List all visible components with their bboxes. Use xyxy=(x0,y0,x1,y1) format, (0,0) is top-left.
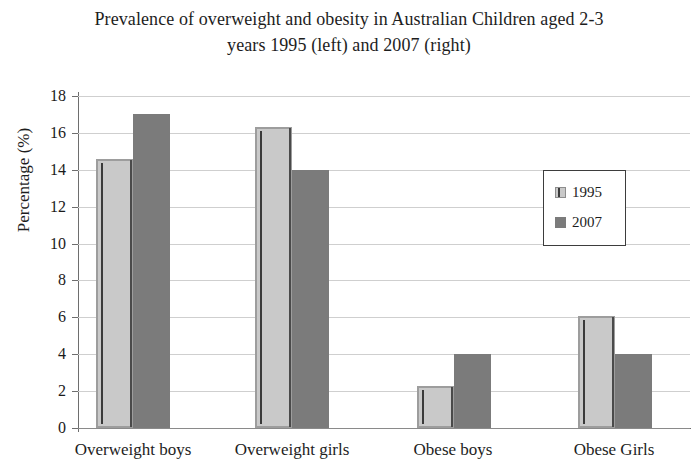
bar-1995-overweight-boys xyxy=(96,159,133,428)
gridline-18 xyxy=(78,96,690,97)
bar-1995-obese-girls xyxy=(578,316,615,429)
y-tick-label-16: 16 xyxy=(30,124,66,142)
plot-area xyxy=(78,96,690,428)
bar-2007-overweight-girls xyxy=(292,170,329,428)
y-tick-label-8: 8 xyxy=(30,271,66,289)
y-tick-16 xyxy=(72,133,78,134)
bar-1995-obese-boys xyxy=(417,386,454,428)
y-tick-8 xyxy=(72,280,78,281)
bar-1995-overweight-girls xyxy=(255,127,292,428)
legend: 1995 2007 xyxy=(543,170,626,246)
bar-2007-obese-girls xyxy=(615,354,652,428)
chart-title-line-1: Prevalence of overweight and obesity in … xyxy=(40,6,658,32)
y-tick-4 xyxy=(72,354,78,355)
gridline-0 xyxy=(78,428,690,429)
y-tick-label-4: 4 xyxy=(30,345,66,363)
legend-label-1995: 1995 xyxy=(572,185,602,199)
y-tick-18 xyxy=(72,96,78,97)
legend-swatch-1995-icon xyxy=(555,187,566,198)
y-tick-6 xyxy=(72,317,78,318)
legend-swatch-2007-icon xyxy=(555,217,566,228)
chart-title-line-2: years 1995 (left) and 2007 (right) xyxy=(40,32,658,58)
chart-figure: Prevalence of overweight and obesity in … xyxy=(0,0,698,470)
chart-title: Prevalence of overweight and obesity in … xyxy=(40,6,658,58)
y-tick-label-18: 18 xyxy=(30,87,66,105)
y-tick-2 xyxy=(72,391,78,392)
y-tick-label-2: 2 xyxy=(30,382,66,400)
y-tick-label-6: 6 xyxy=(30,308,66,326)
y-tick-14 xyxy=(72,170,78,171)
y-tick-label-12: 12 xyxy=(30,198,66,216)
legend-item-2007: 2007 xyxy=(555,215,602,229)
y-tick-0 xyxy=(72,428,78,429)
y-tick-10 xyxy=(72,244,78,245)
y-tick-label-14: 14 xyxy=(30,161,66,179)
legend-item-1995: 1995 xyxy=(555,185,602,199)
y-tick-12 xyxy=(72,207,78,208)
x-category-label-3: Obese Girls xyxy=(514,440,698,460)
y-tick-label-0: 0 xyxy=(30,419,66,437)
bar-2007-overweight-boys xyxy=(133,114,170,428)
y-tick-label-10: 10 xyxy=(30,235,66,253)
bar-2007-obese-boys xyxy=(454,354,491,428)
legend-label-2007: 2007 xyxy=(572,215,602,229)
